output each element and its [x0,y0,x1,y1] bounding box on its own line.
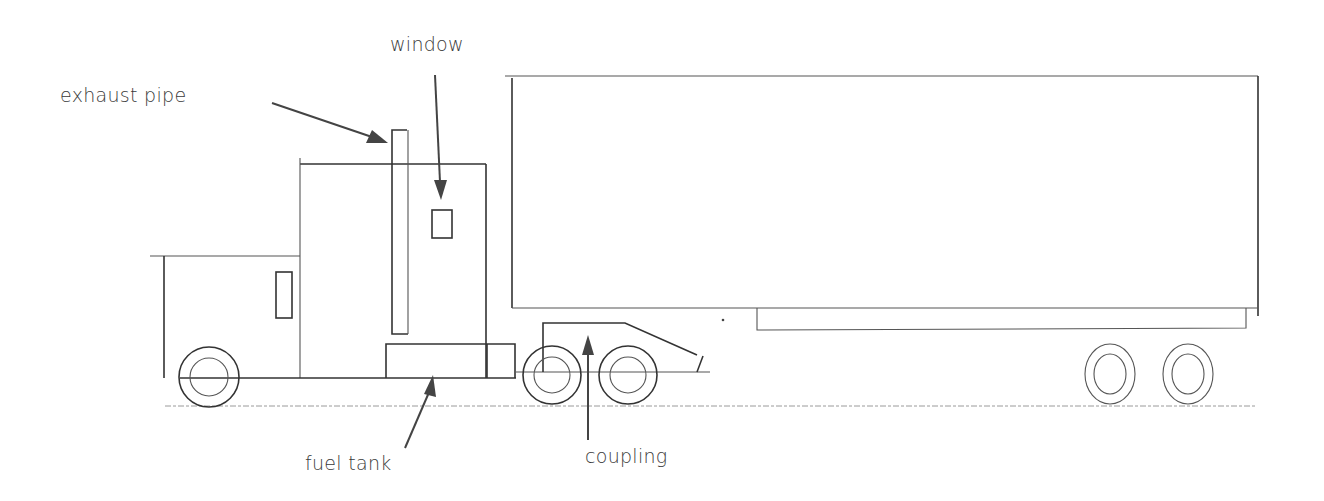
coupling-arrow [582,335,594,440]
fuel-tank-arrow [405,375,436,448]
exhaust-pipe-shape [392,130,408,334]
window-label: window [390,33,464,55]
truck-diagram: exhaust pipe window fuel tank coupling [0,0,1324,501]
truck-cab [300,158,486,378]
window-arrow [434,75,447,200]
truck-drawing [0,0,1324,501]
truck-hood [150,256,300,378]
front-wheel [179,347,239,407]
exhaust-pipe-label: exhaust pipe [60,84,186,106]
fuel-tank-label: fuel tank [305,452,392,474]
exhaust-pipe-arrow [272,103,388,143]
drive-wheel-1 [523,346,581,404]
trailer-wheel-2 [1163,344,1213,404]
trailer-box [505,76,1258,330]
fuel-tank-shape [386,344,515,378]
trailer-wheel-1 [1085,344,1135,404]
drive-wheel-2 [599,346,657,404]
window-shape [432,210,452,238]
coupling-label: coupling [585,445,668,467]
